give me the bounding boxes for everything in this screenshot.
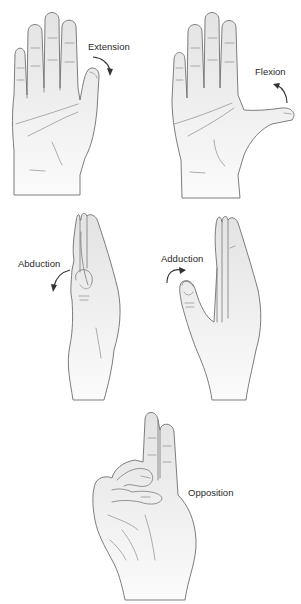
opposition-label: Opposition (188, 487, 233, 498)
adduction-panel: Adduction (161, 216, 261, 400)
flexion-label: Flexion (255, 66, 286, 77)
hand-flexion-illustration (172, 13, 294, 199)
hand-extension-illustration (13, 13, 100, 196)
flexion-arrow-icon (273, 83, 287, 103)
opposition-panel: Opposition (93, 413, 234, 601)
abduction-label: Abduction (18, 258, 60, 269)
adduction-label: Adduction (161, 253, 203, 264)
extension-panel: Extension (13, 13, 130, 196)
abduction-panel: Abduction (18, 213, 120, 400)
abduction-arrow-icon (51, 270, 70, 292)
thumb-movements-diagram: Extension Flexion Abduction (0, 0, 301, 604)
hand-opposition-illustration (93, 413, 196, 601)
flexion-panel: Flexion (172, 13, 294, 199)
hand-abduction-illustration (68, 213, 120, 400)
adduction-arrow-icon (167, 267, 186, 283)
hand-adduction-illustration (180, 216, 261, 400)
extension-label: Extension (88, 41, 130, 52)
